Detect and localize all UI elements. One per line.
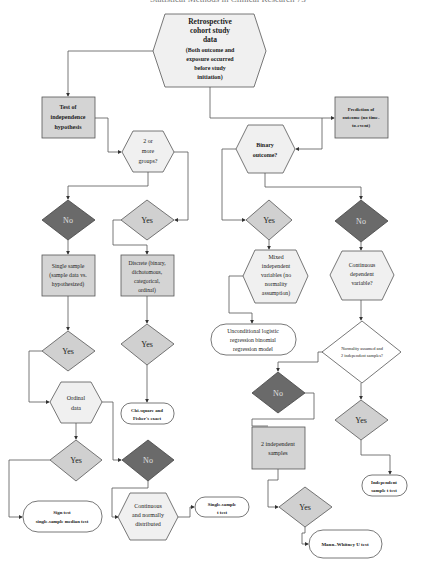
node-line: outcome? [253, 152, 278, 158]
node-line: and normally [132, 512, 164, 518]
prediction-box: Prediction of outcome (no time- to-event… [335, 97, 388, 138]
decision-label: Yes [263, 216, 275, 225]
decision-label: No [356, 217, 366, 226]
no-diamond-binary: No [335, 200, 388, 242]
root-line: exposure occurred [186, 56, 234, 62]
node-line: Mixed [268, 254, 283, 260]
node-line: Sign test [53, 510, 71, 515]
chi-square-terminal: Chi-square and Fisher's exact [121, 403, 174, 424]
node-line: (sample data vs. [49, 272, 87, 279]
test-independence-box: Test of independence hypothesis [42, 97, 95, 138]
two-or-more-groups-hex: 2 or more groups? [122, 131, 174, 172]
node-line: groups? [139, 158, 158, 164]
root-line: data [203, 35, 217, 44]
discrete-box: Discrete (binary, dichotomous, categoric… [121, 255, 174, 296]
node-line: normality [265, 281, 288, 287]
ordinal-data-hex: Ordinal data [50, 382, 102, 423]
decision-label: Yes [70, 456, 82, 465]
mann-whitney-terminal: Mann–Whitney U test [309, 530, 382, 558]
decision-label: Yes [141, 340, 153, 349]
node-line: distributed [135, 521, 161, 527]
node-line: regression binomial [230, 337, 276, 343]
continuous-dependent-hex: Continuous dependent variable? [330, 251, 394, 300]
node-line: variables (no [261, 272, 291, 279]
decision-label: No [273, 389, 283, 398]
node-line: Continuous [134, 503, 162, 509]
node-line: Independent [371, 480, 397, 485]
node-line: Normality assumed and [341, 346, 384, 351]
node-line: independent [262, 263, 291, 269]
root-line: initiation) [197, 74, 222, 81]
yes-diamond-two-independent: Yes [279, 487, 332, 527]
node-line: samples [268, 450, 288, 456]
yes-diamond-binary: Yes [246, 200, 292, 240]
yes-diamond-discrete: Yes [121, 324, 174, 365]
node-line: assumption) [262, 290, 290, 297]
independent-t-test-terminal: Independent sample t test [362, 475, 407, 496]
no-diamond-ordinal: No [122, 440, 174, 481]
node-line: hypothesis [54, 124, 82, 130]
single-sample-box: Single sample (sample data vs. hypothesi… [42, 255, 95, 296]
node-line: independence [50, 114, 85, 120]
decision-label: Yes [299, 503, 311, 512]
node-line: more [142, 148, 155, 154]
node-line: Unconditional logistic [227, 328, 279, 334]
continuous-normal-hex: Continuous and normally distributed [118, 493, 178, 540]
node-line: variable? [351, 280, 373, 286]
logistic-regression-terminal: Unconditional logistic regression binomi… [211, 324, 296, 355]
root-node: Retrospective cohort study data (Both ou… [153, 14, 266, 87]
root-line: cohort study [190, 26, 230, 35]
decision-label: Yes [355, 416, 367, 425]
node-line: regression model [233, 346, 273, 352]
yes-diamond-single: Yes [42, 331, 95, 371]
node-line: dichotomous, [132, 269, 163, 275]
node-line: Mann–Whitney U test [321, 542, 369, 547]
node-line: Single sample [52, 263, 85, 269]
decision-label: No [63, 216, 73, 225]
mixed-variables-hex: Mixed independent variables (no normalit… [243, 250, 308, 303]
node-line: t test [217, 510, 227, 515]
node-line: 2 or [143, 138, 153, 144]
node-line: Chi-square and [131, 408, 163, 413]
decision-label: Yes [62, 347, 74, 356]
binary-outcome-hex: Binary outcome? [236, 125, 295, 173]
two-independent-samples-box: 2 independent samples [252, 427, 305, 469]
node-line: 2 independent [261, 441, 295, 447]
node-line: ordinal) [138, 287, 156, 294]
node-line: Fisher's exact [133, 416, 162, 421]
decision-label: No [143, 456, 153, 465]
node-line: Prediction of [348, 107, 375, 112]
root-line: Retrospective [188, 17, 232, 26]
yes-diamond-ordinal: Yes [50, 440, 102, 481]
node-line: Ordinal [67, 395, 86, 401]
node-line: Continuous [349, 262, 376, 268]
node-line: Test of [60, 104, 78, 110]
single-sample-t-test-terminal: Single-sample t test [195, 497, 249, 517]
node-line: sample t test [371, 488, 397, 493]
node-line: outcome (no time- [342, 115, 379, 120]
decision-label: Yes [141, 216, 153, 225]
node-line: data [71, 405, 81, 411]
node-line: Discrete (binary, [128, 260, 166, 267]
no-diamond-groups: No [42, 200, 95, 240]
node-line: to-event) [352, 123, 371, 128]
root-line: before study [194, 65, 226, 71]
normality-diamond: Normality assumed and 2 independent samp… [322, 321, 401, 383]
node-line: Binary [256, 142, 274, 148]
sign-test-terminal: Sign test single-sample median test [23, 501, 102, 532]
yes-diamond-normality: Yes [335, 400, 388, 440]
node-line: dependent [350, 271, 374, 277]
node-line: 2 independent samples? [341, 353, 383, 358]
node-line: Single-sample [208, 502, 237, 507]
no-diamond-normality: No [252, 372, 305, 413]
node-line: hypothesized) [52, 281, 85, 288]
root-line: (Both outcome and [186, 47, 235, 54]
node-line: single-sample median test [36, 519, 89, 524]
flowchart: Retrospective cohort study data (Both ou… [0, 0, 430, 571]
node-line: categorical, [134, 278, 161, 284]
yes-diamond-groups: Yes [121, 200, 174, 240]
